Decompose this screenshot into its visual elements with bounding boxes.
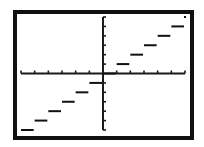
endpoint-dot xyxy=(184,16,186,18)
calculator-graph-screen xyxy=(13,10,194,140)
step-function-plot xyxy=(17,14,190,136)
